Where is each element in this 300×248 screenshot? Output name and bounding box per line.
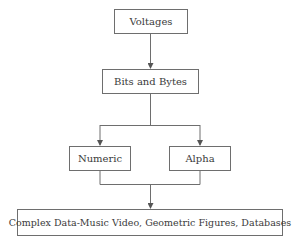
node-label: Bits and Bytes	[114, 76, 187, 87]
node-voltages: Voltages	[114, 9, 188, 34]
node-bits-and-bytes: Bits and Bytes	[102, 69, 199, 94]
node-alpha: Alpha	[169, 146, 231, 171]
node-label: Numeric	[78, 153, 122, 164]
node-complex-data: Complex Data-Music Video, Geometric Figu…	[17, 209, 283, 236]
node-label: Voltages	[130, 16, 173, 27]
node-numeric: Numeric	[69, 146, 131, 171]
node-label: Alpha	[185, 153, 214, 164]
node-label: Complex Data-Music Video, Geometric Figu…	[9, 217, 291, 228]
